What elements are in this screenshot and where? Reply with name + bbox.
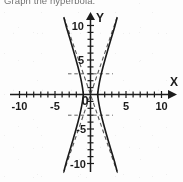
x-tick-label-10: 10 [155,101,167,112]
x-tick-label-5: 5 [123,101,129,112]
y-tick-label--5: -5 [76,124,86,135]
y-axis-arrow [86,12,95,20]
y-tick-label-10: 10 [72,20,84,31]
origin-label: 0 [81,95,88,106]
plot-area [0,0,183,182]
right-branch-lower [98,95,117,172]
right-branch-upper [98,18,117,95]
x-axis-arrow [168,90,177,99]
x-tick-label--5: -5 [50,101,60,112]
hyperbola-figure: Graph the hyperbola. [0,0,183,182]
y-axis-label: Y [96,12,104,24]
y-tick-label-5: 5 [78,55,84,66]
y-tick-label--10: -10 [70,158,86,169]
x-tick-label--10: -10 [12,101,28,112]
axes-group [10,12,177,172]
x-axis-label: X [170,76,178,88]
